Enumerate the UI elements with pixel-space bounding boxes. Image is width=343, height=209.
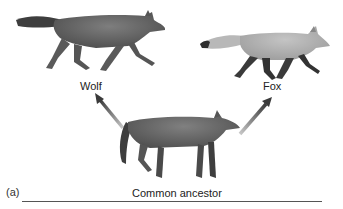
ancestor-label: Common ancestor: [132, 187, 222, 199]
arrow-ancestor-to-fox: [240, 97, 272, 134]
wolf-illustration: [16, 10, 165, 71]
panel-label: (a): [6, 186, 19, 198]
fox-label: Fox: [263, 80, 281, 92]
arrow-ancestor-to-wolf: [95, 93, 123, 128]
ancestor-illustration: [120, 110, 240, 178]
fox-illustration: [200, 26, 330, 80]
diagram-canvas: [0, 0, 343, 209]
caption-divider: [22, 201, 322, 202]
wolf-label: Wolf: [80, 80, 102, 92]
